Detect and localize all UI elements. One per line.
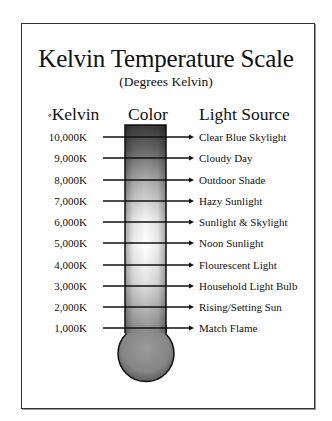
kelvin-label-10000: 10,000K [49,131,87,143]
arrow-heads [189,135,194,331]
light-source-match-flame: Match Flame [199,322,257,334]
light-source-hazy-sunlight: Hazy Sunlight [199,195,262,207]
light-source-clear-blue-skylight: Clear Blue Skylight [199,131,286,143]
light-source-sunlight-skylight: Sunlight & Skylight [199,216,288,228]
kelvin-label-8000: 8,000K [54,174,87,186]
kelvin-label-3000: 3,000K [54,280,87,292]
light-source-noon-sunlight: Noon Sunlight [199,237,263,249]
light-source-outdoor-shade: Outdoor Shade [199,174,265,186]
kelvin-label-7000: 7,000K [54,195,87,207]
kelvin-label-1000: 1,000K [54,322,87,334]
thermometer-bulb [118,326,174,382]
thermometer-tube [125,125,166,333]
kelvin-label-9000: 9,000K [54,152,87,164]
light-source-rising-setting-sun: Rising/Setting Sun [199,301,282,313]
kelvin-label-6000: 6,000K [54,216,87,228]
kelvin-label-4000: 4,000K [54,259,87,271]
thermometer-graphic [0,0,332,421]
light-source-cloudy-day: Cloudy Day [199,152,252,164]
light-source-household-light-bulb: Household Light Bulb [199,280,297,292]
light-source-flourescent-light: Flourescent Light [199,259,277,271]
kelvin-label-2000: 2,000K [54,301,87,313]
kelvin-label-5000: 5,000K [54,237,87,249]
